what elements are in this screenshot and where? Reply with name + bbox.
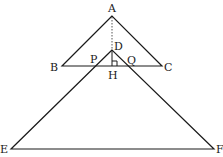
geometry-diagram: A B C D H P Q E F xyxy=(0,0,223,157)
label-f: F xyxy=(216,143,223,156)
label-b: B xyxy=(50,61,58,74)
label-e: E xyxy=(0,143,8,156)
label-p: P xyxy=(90,53,98,66)
label-c: C xyxy=(164,61,172,74)
right-angle-marker xyxy=(112,61,117,66)
label-a: A xyxy=(107,2,117,15)
label-q: Q xyxy=(127,54,136,67)
label-h: H xyxy=(108,69,118,82)
label-d: D xyxy=(114,40,123,53)
